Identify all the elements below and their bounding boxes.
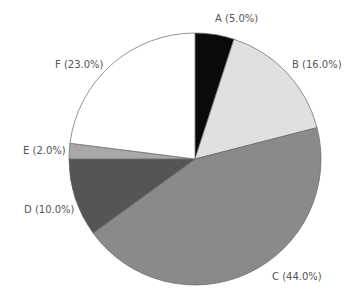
slice-label-e: E (2.0%)	[23, 145, 66, 157]
slice-label-b: B (16.0%)	[292, 59, 342, 71]
pie-slice-f	[70, 33, 195, 159]
slice-label-c: C (44.0%)	[272, 271, 322, 283]
slice-label-f: F (23.0%)	[55, 59, 104, 71]
slice-label-d: D (10.0%)	[24, 204, 74, 216]
slice-label-a: A (5.0%)	[215, 13, 258, 25]
